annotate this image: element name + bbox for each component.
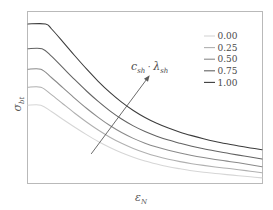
y-axis-label: σbt	[11, 96, 26, 111]
legend-label-0-00: 0.00	[218, 31, 238, 41]
chart-svg: csh·λsh σbt εN 0.000.250.500.751.00	[0, 0, 273, 210]
annot-lambda-sub: sh	[160, 67, 168, 75]
legend-label-1-00: 1.00	[218, 78, 238, 88]
x-axis-label-sub: N	[140, 198, 148, 206]
annot-lambda: λ	[152, 60, 160, 73]
annot-c-sub: sh	[137, 67, 145, 75]
legend-label-0-25: 0.25	[218, 43, 238, 53]
y-axis-label-sub: bt	[18, 96, 26, 103]
x-axis-label: εN	[135, 191, 148, 206]
legend-label-0-50: 0.50	[218, 54, 238, 64]
annot-dot: ·	[148, 62, 151, 72]
chart-figure: csh·λsh σbt εN 0.000.250.500.751.00	[0, 0, 273, 210]
legend-label-0-75: 0.75	[218, 66, 238, 76]
